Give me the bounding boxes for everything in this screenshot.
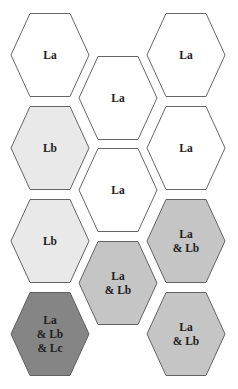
hexagon-label: La (179, 228, 193, 240)
hexagon-shape (147, 293, 225, 376)
hexagon-la-lb: La& Lb (79, 242, 157, 325)
hexagon-lb: Lb (11, 200, 89, 283)
hexagon-label: La (179, 49, 193, 61)
hexagon-shape (79, 242, 157, 325)
hexagon-label: La (111, 270, 125, 282)
hexagon-la: La (147, 14, 225, 97)
hexagon-la: La (11, 14, 89, 97)
hexagon-label: La (43, 314, 57, 326)
hexagon-label: La (43, 49, 57, 61)
hexagon-label: La (111, 92, 125, 104)
hexagon-label: & Lc (37, 342, 62, 354)
hexagon-la: La (79, 57, 157, 140)
hexagon-la: La (147, 107, 225, 190)
hexagon-la-lb-lc: La& Lb& Lc (11, 293, 89, 376)
hexagon-lb: Lb (11, 107, 89, 190)
hexagon-diagram: LaLaLaLbLaLaLbLa& LbLa& LbLa& Lb& LcLa& … (0, 0, 238, 389)
hexagon-label: Lb (43, 235, 57, 247)
hexagon-label: & Lb (173, 242, 200, 254)
hexagon-label: La (179, 142, 193, 154)
hexagon-la: La (79, 149, 157, 232)
hexagon-label: & Lb (37, 328, 64, 340)
hexagon-la-lb: La& Lb (147, 200, 225, 283)
hexagon-label: La (179, 321, 193, 333)
hexagon-label: & Lb (105, 284, 132, 296)
hexagon-shape (147, 200, 225, 283)
hexagon-la-lb: La& Lb (147, 293, 225, 376)
hexagon-label: & Lb (173, 335, 200, 347)
hexagon-label: Lb (43, 142, 57, 154)
hexagon-label: La (111, 184, 125, 196)
